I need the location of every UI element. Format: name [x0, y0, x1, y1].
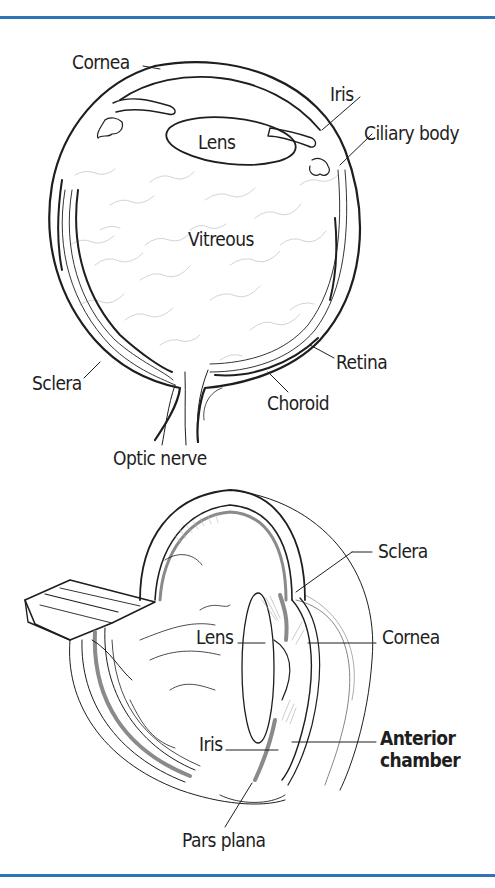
label-lens-top: Lens [198, 133, 235, 152]
label-lens-bottom: Lens [196, 628, 233, 647]
label-anterior-chamber-line2: chamber [380, 750, 460, 771]
label-iris-bottom: Iris [199, 735, 223, 754]
top-eye-cross-section [49, 62, 372, 445]
bottom-lens-shape [242, 593, 274, 743]
bottom-eye-cutaway [25, 490, 376, 827]
label-pars-plana: Pars plana [182, 831, 265, 850]
label-anterior-chamber-line1: Anterior [380, 728, 455, 749]
label-sclera-top: Sclera [32, 374, 82, 393]
label-iris-top: Iris [330, 85, 354, 104]
label-ciliary-body: Ciliary body [364, 124, 459, 143]
label-retina: Retina [336, 353, 387, 372]
label-cornea-bottom: Cornea [382, 628, 440, 647]
label-optic-nerve: Optic nerve [113, 449, 207, 468]
label-choroid: Choroid [267, 394, 329, 413]
vitreous-fibers [70, 169, 338, 360]
label-cornea-top: Cornea [72, 53, 130, 72]
label-sclera-bottom: Sclera [378, 542, 428, 561]
label-vitreous: Vitreous [188, 230, 254, 249]
